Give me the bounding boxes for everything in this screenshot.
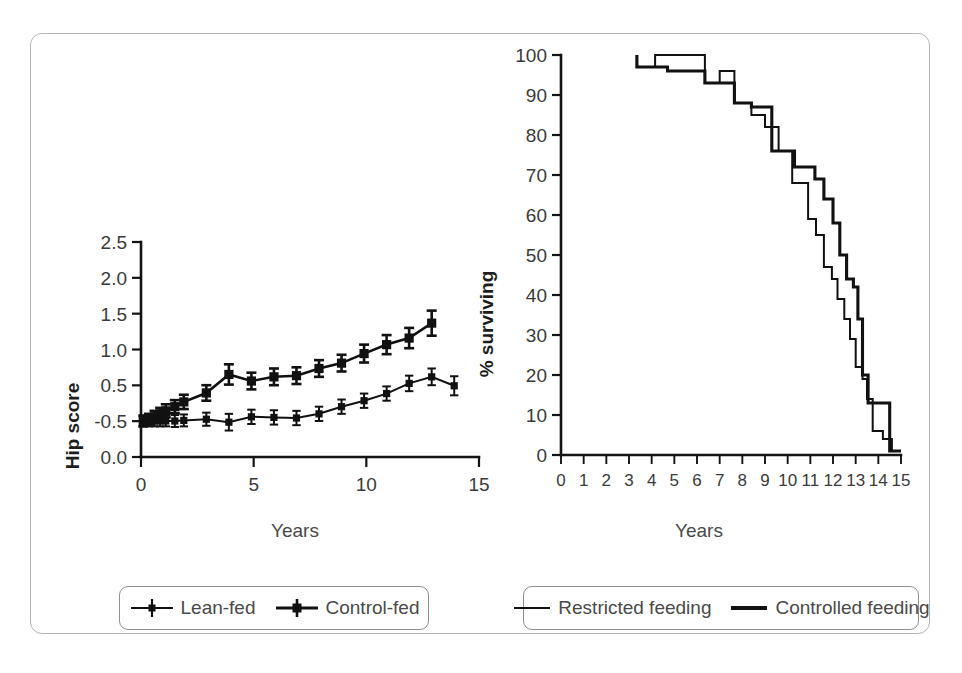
survival-y-tick-label: 70 — [526, 165, 547, 186]
hip-score-y-tick-label: -0.5 — [94, 411, 127, 432]
hip-score-y-tick-label: 0.5 — [101, 375, 127, 396]
legend-label-restricted-feeding: Restricted feeding — [558, 597, 711, 619]
hip-score-series-control-fed — [138, 311, 436, 427]
survival-curve-restricted-feeding — [637, 55, 901, 451]
survival-x-tick-label: 0 — [556, 471, 565, 490]
survival-y-tick-label: 100 — [515, 45, 547, 66]
survival-x-tick-label: 1 — [579, 471, 588, 490]
hip-score-panel: 2.52.01.51.00.5-0.50.0 051015 Hip score … — [49, 34, 489, 635]
figure-frame: 2.52.01.51.00.5-0.50.0 051015 Hip score … — [30, 33, 930, 634]
survival-axis-lines — [561, 55, 901, 455]
survival-x-tick-label: 14 — [869, 471, 888, 490]
survival-x-tick-label: 11 — [802, 471, 820, 490]
thin-line-icon — [512, 599, 552, 617]
survival-x-tick-label: 15 — [892, 471, 911, 490]
survival-y-tick-label: 60 — [526, 205, 547, 226]
survival-x-tick-label: 4 — [647, 471, 656, 490]
hip-score-x-tick-label: 0 — [136, 474, 147, 495]
hip-score-x-tick-label: 5 — [248, 474, 259, 495]
hip-score-y-tick-label: 2.5 — [101, 232, 127, 253]
survival-y-tick-label: 20 — [526, 365, 547, 386]
survival-x-tick-label: 12 — [824, 471, 843, 490]
legend-label-control-fed: Control-fed — [326, 597, 420, 619]
hip-score-y-tick-label: 1.0 — [101, 340, 127, 361]
survival-y-tick-label: 10 — [526, 405, 547, 426]
legend-item-controlled-feeding[interactable]: Controlled feeding — [729, 597, 929, 619]
legend-item-lean-fed[interactable]: Lean-fed — [129, 597, 256, 619]
errorbar-marker-icon — [129, 597, 175, 619]
survival-y-ticks: 0102030405060708090100 — [515, 45, 561, 466]
thick-line-icon — [729, 599, 769, 617]
legend-item-control-fed[interactable]: Control-fed — [274, 597, 420, 619]
survival-x-tick-label: 5 — [670, 471, 679, 490]
hip-score-legend: Lean-fed Control-fed — [119, 586, 429, 630]
survival-series-group — [637, 55, 901, 451]
survival-y-tick-label: 40 — [526, 285, 547, 306]
survival-y-axis-label: % surviving — [476, 271, 497, 378]
hip-score-x-ticks: 051015 — [136, 457, 490, 495]
survival-x-tick-label: 10 — [778, 471, 797, 490]
survival-y-tick-label: 30 — [526, 325, 547, 346]
survival-x-tick-label: 9 — [760, 471, 769, 490]
survival-x-tick-label: 13 — [846, 471, 865, 490]
survival-legend: Restricted feeding Controlled feeding — [523, 586, 919, 630]
legend-label-controlled-feeding: Controlled feeding — [775, 597, 929, 619]
survival-x-axis-label: Years — [675, 520, 723, 541]
survival-chart: 0102030405060708090100 01234567891011121… — [469, 34, 921, 574]
hip-score-y-tick-label: 1.5 — [101, 304, 127, 325]
survival-y-tick-label: 0 — [536, 445, 547, 466]
survival-curve-controlled-feeding — [637, 55, 901, 451]
hip-score-series-group — [138, 311, 458, 431]
survival-x-tick-label: 7 — [715, 471, 724, 490]
legend-label-lean-fed: Lean-fed — [181, 597, 256, 619]
hip-score-y-ticks: 2.52.01.51.00.5-0.50.0 — [94, 232, 141, 468]
hip-score-x-tick-label: 10 — [356, 474, 377, 495]
survival-y-tick-label: 50 — [526, 245, 547, 266]
survival-y-tick-label: 90 — [526, 85, 547, 106]
errorbar-marker-icon — [274, 597, 320, 619]
survival-x-tick-label: 6 — [692, 471, 701, 490]
hip-score-axis-lines — [141, 242, 479, 457]
survival-y-tick-label: 80 — [526, 125, 547, 146]
survival-panel: 0102030405060708090100 01234567891011121… — [469, 34, 921, 635]
hip-score-chart: 2.52.01.51.00.5-0.50.0 051015 Hip score … — [49, 34, 489, 574]
survival-x-tick-label: 3 — [624, 471, 633, 490]
survival-x-ticks: 0123456789101112131415 — [556, 455, 910, 490]
hip-score-y-axis-label: Hip score — [62, 383, 83, 470]
hip-score-y-tick-label: 2.0 — [101, 268, 127, 289]
hip-score-x-axis-label: Years — [271, 520, 319, 541]
survival-x-tick-label: 8 — [738, 471, 747, 490]
survival-x-tick-label: 2 — [602, 471, 611, 490]
hip-score-y-tick-label: 0.0 — [101, 447, 127, 468]
legend-item-restricted-feeding[interactable]: Restricted feeding — [512, 597, 711, 619]
